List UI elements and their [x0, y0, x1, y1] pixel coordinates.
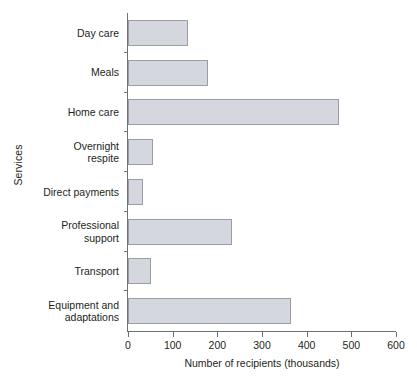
- bar-slot: [128, 53, 396, 93]
- bar: [128, 179, 143, 205]
- x-tick: [173, 332, 174, 337]
- x-tick: [396, 332, 397, 337]
- bar-slot: [128, 172, 396, 212]
- category-label-professional-support: Professional support: [28, 212, 124, 252]
- x-tick: [351, 332, 352, 337]
- x-tick: [307, 332, 308, 337]
- category-label-overnight-respite: Overnight respite: [28, 132, 124, 172]
- x-axis-tick-labels: 0100200300400500600: [128, 339, 396, 353]
- x-tick-label: 0: [125, 339, 131, 351]
- category-label-list: Day care Meals Home care Overnight respi…: [28, 13, 124, 331]
- bar: [128, 219, 232, 245]
- y-axis-title-text: Services: [12, 144, 24, 185]
- bar: [128, 298, 291, 324]
- x-tick-label: 600: [387, 339, 405, 351]
- category-label-day-care: Day care: [28, 13, 124, 53]
- category-label-home-care: Home care: [28, 93, 124, 133]
- bar: [128, 258, 151, 284]
- bar-slot: [128, 93, 396, 133]
- bar-slot: [128, 212, 396, 252]
- x-tick-label: 500: [343, 339, 361, 351]
- x-tick: [217, 332, 218, 337]
- x-axis-title: Number of recipients (thousands): [128, 357, 396, 369]
- x-tick-label: 300: [253, 339, 271, 351]
- bar-series: [128, 13, 396, 331]
- category-label-direct-payments: Direct payments: [28, 172, 124, 212]
- bar: [128, 20, 188, 46]
- x-tick: [262, 332, 263, 337]
- bar: [128, 99, 339, 125]
- category-label-equipment-and-adaptations: Equipment and adaptations: [28, 291, 124, 331]
- bar: [128, 139, 153, 165]
- category-label-meals: Meals: [28, 53, 124, 93]
- x-tick-label: 100: [164, 339, 182, 351]
- plot-area: 0100200300400500600: [128, 13, 396, 331]
- category-label-transport: Transport: [28, 252, 124, 292]
- bar-chart: Services Day care Meals Home care Overni…: [0, 0, 417, 383]
- bar-slot: [128, 252, 396, 292]
- bar-slot: [128, 13, 396, 53]
- x-axis-ticks: [128, 332, 396, 337]
- bar: [128, 60, 208, 86]
- y-axis-title: Services: [8, 0, 28, 330]
- bar-slot: [128, 291, 396, 331]
- x-tick-label: 400: [298, 339, 316, 351]
- x-tick: [128, 332, 129, 337]
- x-tick-label: 200: [209, 339, 227, 351]
- bar-slot: [128, 132, 396, 172]
